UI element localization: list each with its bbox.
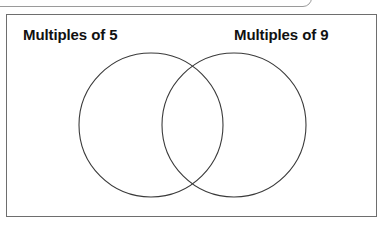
venn-circle-right	[162, 53, 306, 197]
venn-circle-left	[79, 53, 223, 197]
venn-circles	[7, 15, 378, 218]
top-partial-frame	[0, 0, 312, 7]
venn-diagram-panel: Multiples of 5 Multiples of 9	[6, 14, 377, 217]
worksheet-page: Multiples of 5 Multiples of 9	[0, 0, 383, 225]
